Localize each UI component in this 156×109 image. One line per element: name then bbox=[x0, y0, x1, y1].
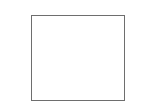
square-outline-shape[interactable] bbox=[31, 15, 125, 101]
diagram-canvas bbox=[0, 0, 156, 109]
square-outline-label bbox=[32, 16, 124, 100]
